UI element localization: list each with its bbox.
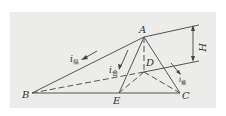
edge-de-dashed <box>119 72 144 93</box>
point-label-b: B <box>21 89 29 100</box>
upper-road-line <box>144 25 199 37</box>
arrow-head-icon <box>81 55 88 60</box>
point-label-d: D <box>145 57 154 68</box>
resultant-slope-label: i合 <box>109 65 118 77</box>
point-label-e: E <box>112 95 121 106</box>
arrow-down-icon <box>191 56 195 62</box>
edge-dc-dashed <box>144 72 180 93</box>
longitudinal-slope-label: i纵 <box>70 54 79 65</box>
arrow-head-icon <box>118 64 122 70</box>
point-label-c: C <box>182 90 190 101</box>
edge-ae <box>119 37 144 93</box>
point-label-a: A <box>138 24 146 35</box>
height-label: H <box>197 42 208 52</box>
edge-ab <box>32 37 144 93</box>
transverse-slope-label: i横 <box>179 76 186 86</box>
slope-diagram: A B C D E H i纵 i合 i横 <box>0 0 226 116</box>
